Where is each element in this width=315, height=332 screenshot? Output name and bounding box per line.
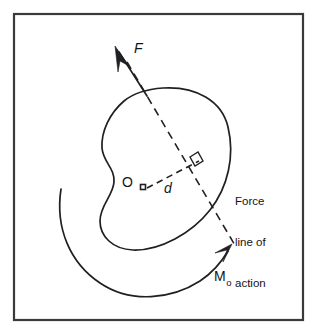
moment-label: Mo	[214, 268, 231, 287]
distance-label: d	[164, 180, 172, 197]
force-line-label-row-3: action	[235, 277, 266, 291]
force-line-label-row-1: Force	[235, 195, 266, 209]
moment-symbol: M	[214, 268, 226, 284]
force-line-label-row-2: line of	[235, 236, 266, 250]
figure-canvas	[0, 0, 315, 332]
force-line-of-action-label: Force line of action	[235, 168, 266, 317]
pivot-point-marker	[141, 185, 146, 190]
moment-of-force-figure: F O d Force line of action Mo	[0, 0, 315, 332]
force-label: F	[134, 40, 143, 57]
moment-subscript: o	[226, 277, 231, 288]
origin-label: O	[122, 174, 133, 191]
